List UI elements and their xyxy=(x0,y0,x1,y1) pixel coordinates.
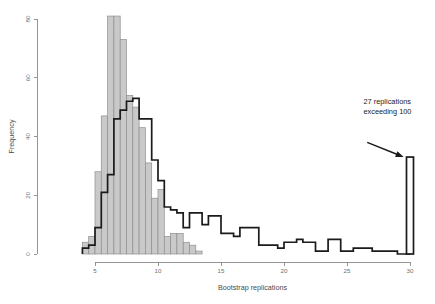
histogram-bar xyxy=(177,233,183,254)
histogram-bar xyxy=(101,116,107,254)
plot-canvas: 51015202530 020406080 Bootstrap replicat… xyxy=(0,0,435,304)
y-tick-label: 60 xyxy=(24,74,31,81)
x-tick-label: 5 xyxy=(93,267,97,274)
y-axis-title: Frequency xyxy=(7,119,16,153)
histogram-bar xyxy=(158,189,164,254)
x-tick-label: 15 xyxy=(218,267,225,274)
x-axis-title: Bootstrap replications xyxy=(218,283,288,292)
annotation-arrow-head xyxy=(395,151,404,157)
gray-histogram-bars xyxy=(82,16,202,254)
annotation-layer: 27 replications exceeding 100 xyxy=(363,97,411,157)
histogram-bar xyxy=(108,16,114,254)
histogram-bar xyxy=(164,236,170,254)
histogram-bar xyxy=(152,198,158,254)
x-tick-label: 30 xyxy=(407,267,414,274)
histogram-bar xyxy=(127,95,133,254)
y-tick-label: 80 xyxy=(24,15,31,22)
annotation-line-2: exceeding 100 xyxy=(363,107,411,116)
histogram-bar xyxy=(114,16,120,254)
x-axis: 51015202530 xyxy=(93,262,414,274)
overflow-spike-bar xyxy=(407,157,414,254)
x-tick-label: 20 xyxy=(281,267,288,274)
x-tick-label: 25 xyxy=(344,267,351,274)
overflow-bar xyxy=(407,157,414,254)
histogram-bar xyxy=(120,40,126,254)
histogram-bar xyxy=(171,233,177,254)
histogram-chart: 51015202530 020406080 Bootstrap replicat… xyxy=(0,0,435,304)
histogram-bar xyxy=(133,107,139,254)
y-tick-label: 20 xyxy=(24,191,31,198)
x-tick-label: 10 xyxy=(155,267,162,274)
histogram-bar xyxy=(196,251,202,254)
annotation-line-1: 27 replications xyxy=(363,97,411,106)
y-axis: 020406080 xyxy=(24,15,37,256)
histogram-bar xyxy=(190,245,196,254)
histogram-bar xyxy=(183,242,189,254)
annotation-arrow-line xyxy=(367,142,398,154)
histogram-bar xyxy=(139,128,145,254)
y-tick-label: 0 xyxy=(24,252,31,256)
histogram-bar xyxy=(95,172,101,254)
histogram-bar xyxy=(145,163,151,254)
y-tick-label: 40 xyxy=(24,133,31,140)
